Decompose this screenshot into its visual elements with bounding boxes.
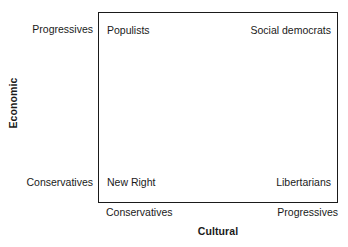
y-axis-low-label: Conservatives [0,176,93,188]
plot-area: Populists Social democrats New Right Lib… [98,12,338,203]
quadrant-label-bottom-right: Libertarians [276,176,331,188]
x-axis-low-label: Conservatives [106,206,173,218]
quadrant-label-top-right: Social democrats [250,24,331,36]
y-axis-title: Economic [7,53,19,153]
political-quadrant-diagram: Economic Progressives Conservatives Popu… [0,0,348,247]
x-axis-high-label: Progressives [238,206,338,218]
y-axis-high-label: Progressives [0,23,93,35]
quadrant-label-top-left: Populists [107,24,150,36]
quadrant-label-bottom-left: New Right [107,176,155,188]
x-axis-title: Cultural [98,225,338,237]
